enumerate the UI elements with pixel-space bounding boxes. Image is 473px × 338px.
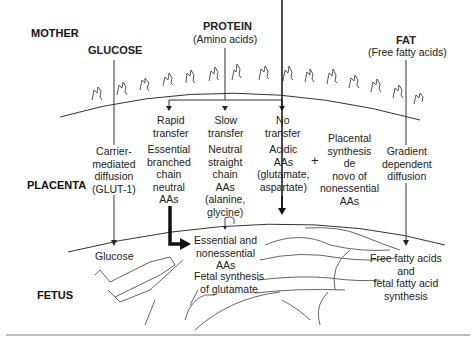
- region-label-placenta: PLACENTA: [27, 179, 86, 191]
- fat-mechanism: Gradient dependent diffusion: [382, 145, 432, 183]
- rapid-transfer-label: Rapid transfer: [153, 114, 189, 139]
- fat-subtitle: (Free fatty acids): [368, 46, 447, 59]
- protein-title: PROTEIN: [203, 20, 252, 33]
- neutral-straight-chain-label: Neutral straight chain AAs (alanine, gly…: [205, 143, 245, 218]
- glucose-title: GLUCOSE: [88, 44, 142, 57]
- no-transfer-label: No transfer: [265, 114, 301, 139]
- fetal-fatty-acids-label: Free fatty acids and fetal fatty acid sy…: [370, 252, 442, 302]
- placental-synthesis-label: Placental synthesis de novo of nonessent…: [320, 132, 379, 207]
- fetal-glucose-label: Glucose: [95, 250, 134, 263]
- glucose-mechanism: Carrier- mediated diffusion (GLUT-1): [92, 145, 136, 195]
- protein-subtitle: (Amino acids): [193, 33, 257, 46]
- acidic-aa-label: Acidic AAs (glutamate, aspartate): [257, 143, 310, 193]
- fetal-amino-acids-label: Essential and nonessential AAs: [194, 234, 257, 272]
- fetal-glutamate-synthesis-label: Fetal synthesis of glutamate: [194, 270, 264, 295]
- placental-transfer-diagram: MOTHER PLACENTA FETUS GLUCOSE PROTEIN (A…: [0, 0, 473, 338]
- slow-transfer-label: Slow transfer: [208, 114, 244, 139]
- region-label-mother: MOTHER: [31, 27, 79, 39]
- villi-tufts: [92, 64, 423, 104]
- fat-title: FAT: [396, 34, 416, 47]
- region-label-fetus: FETUS: [37, 289, 73, 301]
- plus-sign: +: [311, 155, 319, 168]
- essential-bcaa-label: Essential branched chain neutral AAs: [147, 143, 191, 206]
